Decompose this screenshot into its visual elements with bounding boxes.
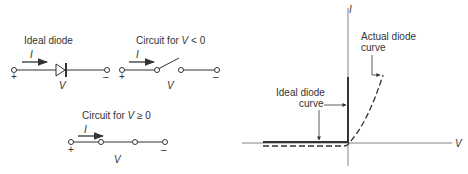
ideal-diode-circuit: Ideal diode I + – V [11,35,110,91]
actual-curve-label-line1: Actual diode [361,31,416,42]
minus-sign: – [103,71,109,82]
current-label: I [136,49,139,60]
voltage-label: V [114,154,122,165]
minus-sign: – [213,71,219,82]
circuit-v-negative-title: Circuit for V < 0 [136,35,206,46]
plus-sign: + [11,71,17,82]
ideal-curve-label-line2: curve [299,98,324,109]
voltage-label: V [167,80,175,91]
open-switch-icon [159,58,179,69]
actual-curve-label-line2: curve [361,42,386,53]
current-label: I [84,124,87,135]
actual-label-pointer-icon [372,55,380,75]
circuit-v-positive-title: Circuit for V ≥ 0 [82,110,151,121]
diode-symbol-icon [56,64,65,76]
y-axis-label: I [349,4,352,15]
diode-figure: Ideal diode I + – V Circuit for V < 0 I … [0,0,468,174]
plus-sign: + [119,71,125,82]
ideal-curve-label-line1: Ideal diode [276,87,325,98]
current-label: I [30,49,33,60]
plus-sign: + [68,144,74,155]
circuit-v-positive: Circuit for V ≥ 0 I + – V [68,110,168,165]
voltage-label: V [59,80,67,91]
x-axis-label: V [455,138,463,149]
actual-diode-curve [263,75,383,146]
circuit-v-negative: Circuit for V < 0 I + – V [119,35,220,91]
ideal-diode-title: Ideal diode [24,35,73,46]
iv-graph: I V Ideal diode curve Actual diode curve [242,4,463,166]
minus-sign: – [161,144,167,155]
